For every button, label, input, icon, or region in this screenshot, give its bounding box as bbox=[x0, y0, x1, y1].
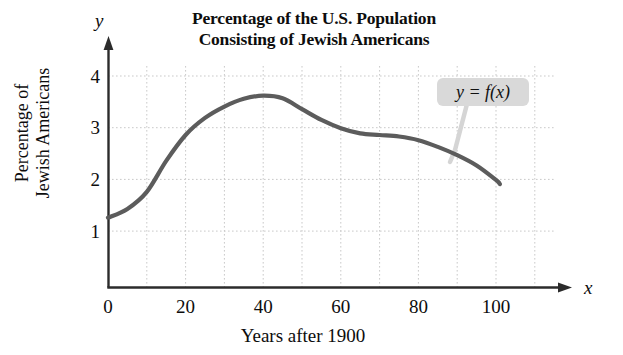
y-tick-label-2: 2 bbox=[76, 170, 100, 189]
x-tick-label-40: 40 bbox=[243, 297, 283, 316]
x-tick-label-80: 80 bbox=[398, 297, 438, 316]
x-axis-letter: x bbox=[584, 278, 592, 297]
y-axis bbox=[104, 36, 114, 288]
x-axis-title: Years after 1900 bbox=[178, 325, 428, 347]
x-tick-label-20: 20 bbox=[166, 297, 206, 316]
x-axis-arrowhead-icon bbox=[558, 283, 572, 293]
chart-figure: Percentage of the U.S. Population Consis… bbox=[0, 0, 623, 355]
x-tick-label-0: 0 bbox=[88, 297, 128, 316]
y-tick-label-4: 4 bbox=[76, 67, 100, 86]
y-axis-arrowhead-icon bbox=[104, 36, 114, 50]
function-callout: y = f(x) bbox=[437, 78, 529, 106]
x-tick-label-100: 100 bbox=[476, 297, 516, 316]
y-axis-title-line-1: Percentage of bbox=[12, 38, 33, 228]
data-curve-main bbox=[108, 96, 500, 218]
y-tick-label-3: 3 bbox=[76, 118, 100, 137]
x-tick-label-60: 60 bbox=[321, 297, 361, 316]
y-axis-letter: y bbox=[95, 11, 103, 30]
y-axis-title: Percentage of Jewish Americans bbox=[12, 38, 54, 228]
x-axis bbox=[107, 283, 572, 293]
y-axis-title-line-2: Jewish Americans bbox=[33, 38, 54, 228]
function-callout-label: y = f(x) bbox=[456, 83, 510, 101]
y-tick-label-1: 1 bbox=[76, 222, 100, 241]
